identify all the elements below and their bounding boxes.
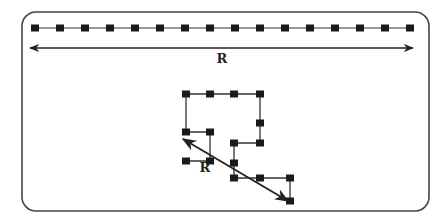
chain-segment-node: [256, 140, 264, 147]
chain-segment-node: [206, 91, 214, 98]
chain-segment-node: [406, 25, 414, 32]
chain-segment-node: [331, 25, 339, 32]
chain-segment-node: [381, 25, 389, 32]
chain-segment-node: [231, 25, 239, 32]
chain-segment-node: [131, 25, 139, 32]
chain-segment-node: [256, 91, 264, 98]
chain-segment-node: [306, 25, 314, 32]
chain-segment-node: [156, 25, 164, 32]
chain-segment-node: [230, 175, 238, 182]
end-to-end-distance-label-coiled: R: [200, 160, 211, 175]
chain-segment-node: [230, 160, 238, 167]
chain-segment-node: [182, 91, 190, 98]
chain-segment-node: [256, 120, 264, 127]
chain-segment-node: [182, 158, 190, 165]
polymer-chain-diagram: R R: [0, 0, 445, 222]
chain-segment-node: [230, 91, 238, 98]
chain-segment-node: [230, 140, 238, 147]
chain-segment-node: [56, 25, 64, 32]
chain-segment-node: [281, 25, 289, 32]
end-to-end-distance-label-extended: R: [217, 51, 228, 66]
chain-segment-node: [81, 25, 89, 32]
chain-segment-node: [206, 129, 214, 136]
chain-segment-node: [356, 25, 364, 32]
coiled-chain-links: [186, 94, 290, 201]
chain-segment-node: [31, 25, 39, 32]
chain-segment-node: [181, 25, 189, 32]
chain-segment-node: [256, 175, 264, 182]
chain-segment-node: [182, 129, 190, 136]
chain-segment-node: [256, 25, 264, 32]
chain-segment-node: [286, 175, 294, 182]
chain-segment-node: [106, 25, 114, 32]
diagram-frame: [22, 12, 429, 211]
chain-segment-node: [206, 25, 214, 32]
